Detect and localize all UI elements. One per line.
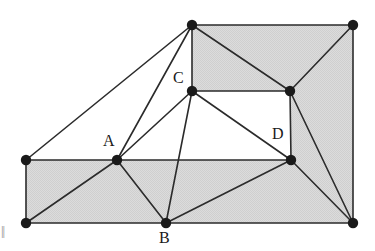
vertex-node-A [112, 155, 122, 165]
vertex-node-G [21, 155, 31, 165]
label-B: B [159, 230, 170, 246]
edge-E-D [290, 91, 291, 160]
figure-canvas [0, 0, 375, 251]
vertex-node-I [348, 20, 358, 30]
label-D: D [272, 126, 284, 142]
geometry-figure: ABCD || [0, 0, 375, 251]
vertex-node-C [187, 86, 197, 96]
label-A: A [103, 133, 115, 149]
vertex-node-J [348, 218, 358, 228]
vertex-node-E [285, 86, 295, 96]
vertex-node-B [161, 218, 171, 228]
margin-artifact-glyph: || [1, 224, 4, 237]
vertex-node-D [286, 155, 296, 165]
label-C: C [173, 70, 184, 86]
vertex-node-H [21, 218, 31, 228]
vertex-node-F [187, 20, 197, 30]
